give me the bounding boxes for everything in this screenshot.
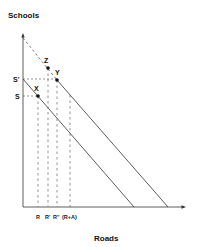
economics-diagram: Schools Z Y X S' S R R' R'' (R+A) Roads <box>0 0 200 247</box>
x-tick-r: R <box>36 214 40 220</box>
point-x <box>36 94 40 98</box>
inner-budget-line <box>23 79 134 207</box>
point-z-label: Z <box>44 57 49 64</box>
x-axis-arrow-icon <box>182 205 187 208</box>
x-tick-r-plus-a: (R+A) <box>62 214 77 220</box>
point-y-label: Y <box>55 69 60 76</box>
y-axis-arrow-icon <box>21 33 24 38</box>
point-x-label: X <box>34 85 39 92</box>
x-tick-r-prime: R' <box>45 214 51 220</box>
outer-budget-line <box>57 80 168 207</box>
point-y <box>55 78 59 82</box>
x-tick-r-double-prime: R'' <box>53 214 60 220</box>
outer-budget-line-extension <box>23 38 57 80</box>
x-axis-title: Roads <box>94 234 119 243</box>
y-tick-s-prime: S' <box>13 76 20 83</box>
y-axis-title: Schools <box>8 11 40 20</box>
y-tick-s: S <box>15 93 20 100</box>
point-z <box>46 66 50 70</box>
